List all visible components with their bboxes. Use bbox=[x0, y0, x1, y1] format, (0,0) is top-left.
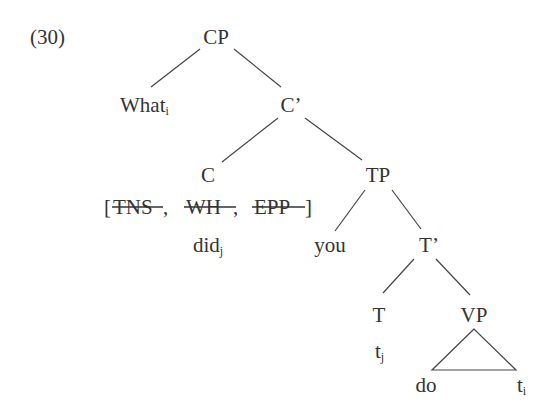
t-trace-index: j bbox=[380, 350, 384, 364]
edge-cbar-tp bbox=[305, 118, 362, 160]
node-did: didj bbox=[193, 233, 223, 258]
what-index: i bbox=[165, 104, 169, 118]
node-vp: VP bbox=[461, 303, 488, 327]
node-what: Whati bbox=[120, 93, 169, 118]
what-label: What bbox=[120, 93, 166, 117]
node-you: you bbox=[314, 233, 346, 257]
did-label: did bbox=[193, 233, 220, 257]
obj-trace-index: i bbox=[523, 384, 527, 398]
feature-open-bracket: [ bbox=[104, 195, 111, 219]
edge-tp-tbar bbox=[392, 190, 421, 229]
edge-tbar-vp bbox=[436, 259, 470, 295]
node-t-bar: T’ bbox=[419, 233, 439, 257]
edge-tbar-t bbox=[383, 259, 414, 293]
svg-text:ti: ti bbox=[517, 373, 527, 398]
node-object-trace: ti bbox=[517, 373, 527, 398]
syntax-tree-diagram: (30) CP Whati C’ C [ TNS , WH , EPP ] di… bbox=[0, 0, 558, 412]
edge-cbar-c bbox=[222, 118, 278, 162]
node-cp: CP bbox=[203, 25, 229, 49]
edge-tp-you bbox=[335, 190, 365, 231]
feature-close-bracket: ] bbox=[305, 195, 312, 219]
svg-text:Whati: Whati bbox=[120, 93, 169, 118]
did-index: j bbox=[219, 244, 223, 258]
node-t: T bbox=[373, 303, 386, 327]
vp-triangle bbox=[432, 329, 516, 370]
node-c-bar: C’ bbox=[281, 93, 302, 117]
node-c: C bbox=[201, 163, 215, 187]
svg-text:tj: tj bbox=[375, 339, 384, 364]
node-tp: TP bbox=[366, 163, 391, 187]
node-t-trace: tj bbox=[375, 339, 384, 364]
edge-cp-cbar bbox=[234, 49, 281, 87]
feature-bundle: [ TNS , WH , EPP ] bbox=[104, 195, 312, 219]
svg-text:didj: didj bbox=[193, 233, 223, 258]
edge-cp-what bbox=[151, 49, 200, 87]
example-number: (30) bbox=[30, 25, 65, 49]
node-do: do bbox=[416, 373, 437, 397]
feature-tns-sep: , bbox=[163, 195, 168, 219]
